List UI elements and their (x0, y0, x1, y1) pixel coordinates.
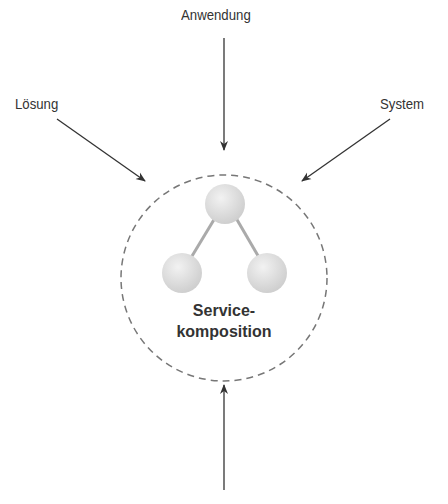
center-label-line1: Service- (0, 300, 448, 322)
arrow-left (57, 119, 145, 181)
label-top: Anwendung (181, 6, 251, 23)
service-node-left (162, 253, 202, 293)
arrow-right (302, 119, 390, 181)
label-right: System (380, 95, 424, 112)
service-node-top (205, 184, 245, 224)
diagram-canvas (0, 0, 448, 504)
center-label-line2: komposition (0, 321, 448, 343)
label-left: Lösung (15, 95, 58, 112)
service-node-right (247, 253, 287, 293)
